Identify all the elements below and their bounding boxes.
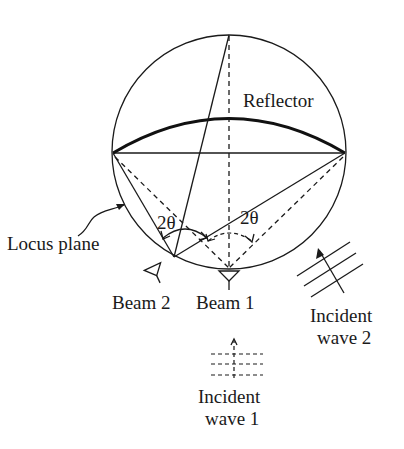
incident-wave-2-icon	[297, 242, 363, 297]
incident-wave-1-label-line2: wave 1	[205, 408, 259, 429]
beam-1-label: Beam 1	[196, 292, 255, 313]
beam-2-label: Beam 2	[112, 292, 171, 313]
beam-2-ray-right	[174, 153, 345, 257]
beam-2-axis	[174, 35, 229, 257]
beam-1-feed-icon	[219, 271, 239, 290]
reflector-label: Reflector	[243, 90, 314, 111]
locus-circle	[112, 35, 346, 269]
locus-plane-label: Locus plane	[7, 233, 99, 254]
incident-wave-2-label-line2: wave 2	[317, 327, 371, 348]
angle-label-beam-1: 2θ	[240, 207, 259, 228]
angle-arrowhead-b1-right	[245, 234, 254, 242]
reflector-locus-diagram: 2θ 2θ Reflector Locus plane Beam 2 Beam …	[0, 0, 404, 449]
locus-plane-arrow	[78, 205, 124, 236]
angle-label-beam-2: 2θ	[157, 212, 176, 233]
incident-wave-1-icon	[211, 339, 263, 378]
incident-wave-2-label-line1: Incident	[310, 305, 373, 326]
beam-2-feed-icon	[144, 263, 168, 287]
incident-wave-1-label-line1: Incident	[198, 386, 261, 407]
